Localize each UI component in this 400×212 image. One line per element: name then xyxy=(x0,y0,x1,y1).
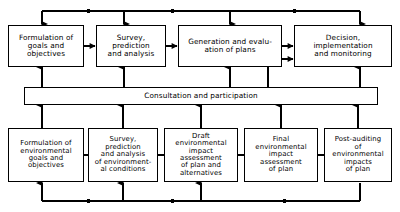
node-decision-implementation-and-monitoring[interactable]: Decision, implementation and monitoring xyxy=(294,25,392,67)
node-draft-environmental-impact-assessment-of-plan-and-alternatives[interactable]: Draft environmental impact assessment of… xyxy=(164,128,238,182)
node-post-auditing-of-environmental-impacts-of-plan[interactable]: Post-auditing of environmental impacts o… xyxy=(324,128,392,182)
flowchart-diagram: Formulation of goals and objectives Surv… xyxy=(0,0,400,212)
node-survey-prediction-and-analysis[interactable]: Survey, prediction and analysis xyxy=(96,25,166,67)
node-generation-and-evaluation-of-plans[interactable]: Generation and evalu- ation of plans xyxy=(178,25,282,67)
bottom-feedback-path xyxy=(42,183,360,204)
top-feedback-path xyxy=(42,8,360,24)
node-final-environmental-impact-assessment-of-plan[interactable]: Final environmental impact assessment of… xyxy=(244,128,318,182)
node-formulation-of-environmental-goals-and-objectives[interactable]: Formulation of environmental goals and o… xyxy=(8,128,84,182)
bottom-to-consultation-links xyxy=(42,105,358,128)
node-formulation-of-goals-and-objectives[interactable]: Formulation of goals and objectives xyxy=(8,25,84,67)
node-consultation-and-participation[interactable]: Consultation and participation xyxy=(24,87,378,105)
node-survey-prediction-and-analysis-of-environmental-conditions[interactable]: Survey, prediction and analysis of envir… xyxy=(88,128,158,182)
